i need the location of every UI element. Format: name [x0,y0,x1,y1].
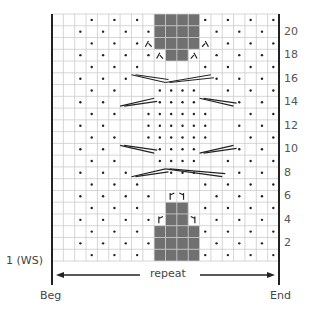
beg-label: Beg [40,289,61,302]
dark-cell [177,49,188,61]
purl-dot [170,125,172,127]
purl-dot [102,148,104,150]
purl-dot [227,254,229,256]
purl-dot [125,242,127,244]
purl-dot [227,42,229,44]
row-number: 2 [284,236,291,249]
purl-dot [159,113,161,115]
dark-cell [166,226,177,238]
purl-dot [272,207,274,209]
decrease-left-icon [145,41,151,47]
purl-dot [113,66,115,68]
purl-dot [147,125,149,127]
purl-dot [113,42,115,44]
purl-dot [272,19,274,21]
purl-dot [215,30,217,32]
purl-dot [170,148,172,150]
row-number: 14 [284,95,298,108]
purl-dot [215,242,217,244]
purl-dot [204,19,206,21]
purl-dot [79,219,81,221]
purl-dot [91,207,93,209]
purl-dot [227,230,229,232]
purl-dot [79,77,81,79]
purl-dot [113,160,115,162]
dark-cell [166,49,177,61]
purl-dot [238,148,240,150]
purl-dot [204,66,206,68]
purl-dot [125,54,127,56]
purl-dot [136,230,138,232]
row-number: 6 [284,189,291,202]
dark-cell [166,202,177,214]
dark-cell [166,249,177,261]
purl-dot [113,136,115,138]
purl-dot [193,125,195,127]
purl-dot [170,160,172,162]
purl-dot [249,66,251,68]
dark-cell [177,237,188,249]
purl-dot [102,172,104,174]
repeat-label: repeat [150,267,186,280]
dark-cell [188,26,199,38]
purl-dot [272,254,274,256]
purl-dot [159,89,161,91]
purl-dot [261,219,263,221]
purl-dot [272,160,274,162]
purl-dot [193,113,195,115]
purl-dot [249,19,251,21]
purl-dot [181,136,183,138]
purl-dot [79,148,81,150]
purl-dot [102,125,104,127]
increase-left-icon [170,193,174,200]
purl-dot [261,54,263,56]
purl-dot [125,172,127,174]
purl-dot [204,207,206,209]
purl-dot [159,101,161,103]
dark-cell [177,226,188,238]
purl-dot [261,30,263,32]
dark-cell [177,249,188,261]
purl-dot [215,54,217,56]
purl-dot [147,195,149,197]
purl-dot [147,30,149,32]
purl-dot [181,113,183,115]
arrow-left-icon [56,272,64,278]
purl-dot [249,42,251,44]
purl-dot [181,101,183,103]
purl-dot [91,254,93,256]
purl-dot [193,160,195,162]
purl-dot [170,89,172,91]
purl-dot [238,30,240,32]
purl-dot [238,172,240,174]
purl-dot [227,207,229,209]
purl-dot [79,54,81,56]
purl-dot [147,136,149,138]
knitting-chart [0,0,310,312]
dark-cell [188,38,199,50]
first-row-label: 1 (WS) [6,254,43,267]
purl-dot [113,89,115,91]
purl-dot [91,113,93,115]
row-number: 16 [284,72,298,85]
row-number: 20 [284,25,298,38]
dark-cell [188,14,199,26]
purl-dot [91,89,93,91]
purl-dot [193,136,195,138]
dark-cell [154,237,165,249]
purl-dot [147,54,149,56]
purl-dot [102,77,104,79]
purl-dot [113,19,115,21]
increase-right-icon [191,216,195,223]
purl-dot [181,125,183,127]
dark-cell [166,14,177,26]
purl-dot [249,183,251,185]
purl-dot [238,101,240,103]
purl-dot [272,42,274,44]
purl-dot [272,230,274,232]
purl-dot [181,89,183,91]
purl-dot [136,183,138,185]
purl-dot [249,207,251,209]
dark-cell [166,214,177,226]
dark-cell [177,214,188,226]
